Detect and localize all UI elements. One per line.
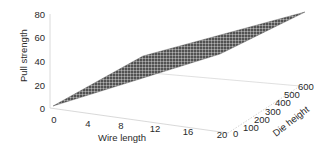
z-tick: 60 bbox=[34, 32, 45, 43]
x-tick: 16 bbox=[183, 126, 194, 137]
z-tick: 0 bbox=[40, 103, 45, 114]
x-tick: 8 bbox=[118, 120, 123, 131]
z-axis-label: Pull strength bbox=[18, 29, 29, 82]
x-tick: 4 bbox=[85, 118, 90, 129]
x-axis-line bbox=[50, 108, 228, 133]
y-tick: 0 bbox=[233, 128, 238, 139]
surface-mesh bbox=[53, 12, 305, 106]
x-tick: 0 bbox=[51, 114, 56, 125]
z-tick: 80 bbox=[34, 9, 45, 20]
x-tick: 12 bbox=[150, 123, 161, 134]
surface-plot: 80 60 40 20 0 Pull strength 0 4 8 12 16 … bbox=[0, 0, 334, 159]
back-floor-edge bbox=[140, 72, 300, 86]
y-tick: 600 bbox=[298, 81, 314, 92]
z-tick: 40 bbox=[34, 56, 45, 67]
z-tick: 20 bbox=[34, 80, 45, 91]
x-axis-label: Wire length bbox=[98, 132, 146, 143]
x-tick: 20 bbox=[217, 129, 228, 140]
